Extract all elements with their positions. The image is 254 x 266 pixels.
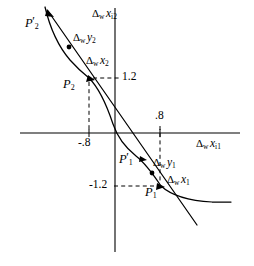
vector-label-dw-x2-delta-sub: w	[93, 59, 98, 68]
point-label-p1-sub: 1	[153, 191, 157, 200]
vector-label-dw-y1: Δwy1	[153, 157, 176, 170]
midpoint-dot-upper	[67, 45, 72, 50]
arrowhead-p1-prime	[139, 156, 147, 162]
vector-label-dw-x2: Δwx2	[86, 55, 109, 68]
midpoint-dot-lower	[150, 171, 155, 176]
diagram-canvas	[0, 0, 254, 266]
y-axis-label-var-sub: i2	[111, 12, 117, 21]
vector-label-dw-y1-delta-sub: w	[160, 161, 165, 170]
y-axis-label-delta-sub: w	[99, 12, 104, 21]
vector-label-dw-x2-var-sub: 2	[105, 59, 109, 68]
vector-label-dw-y2-delta-sub: w	[80, 36, 85, 45]
vector-label-dw-y2-var-sub: 2	[92, 36, 96, 45]
vector-label-dw-x1-delta-sub: w	[174, 178, 179, 187]
point-label-p1: P1	[145, 186, 157, 200]
straight-line	[48, 11, 197, 225]
x-axis-label-var-sub: i1	[215, 142, 221, 151]
y-axis-label: Δwxi2	[92, 8, 117, 21]
tick-label-y-positive: 1.2	[122, 71, 136, 83]
point-label-p2-prime-sub: 2	[35, 22, 39, 31]
vector-arrowhead-group	[45, 9, 165, 190]
vector-label-dw-y1-var-sub: 1	[172, 161, 176, 170]
vector-label-dw-x1-var-sub: 1	[186, 178, 190, 187]
tick-label-x-negative: -.8	[78, 137, 90, 149]
axis-group	[20, 8, 240, 252]
tick-label-x-positive: .8	[155, 110, 164, 122]
point-label-p1-prime: P′1	[119, 151, 133, 167]
point-label-p2-sub: 2	[71, 83, 75, 92]
point-label-p2-var: P	[63, 77, 71, 91]
figure-container: Δwxi2 Δwxi1 -.8 .8 1.2 -1.2 P′2 P2 P′1 P…	[0, 0, 254, 266]
tick-label-y-negative: -1.2	[89, 179, 107, 191]
point-label-p2-prime: P′2	[25, 15, 39, 31]
vector-label-dw-y2: Δwy2	[73, 32, 96, 45]
vector-label-dw-x1: Δwx1	[167, 174, 190, 187]
point-label-p2: P2	[63, 78, 75, 92]
point-label-p1-prime-sub: 1	[129, 158, 133, 167]
x-axis-label: Δwxi1	[196, 138, 221, 151]
point-label-p1-var: P	[145, 185, 153, 199]
marker-dot-group	[67, 45, 155, 176]
x-axis-label-delta-sub: w	[203, 142, 208, 151]
